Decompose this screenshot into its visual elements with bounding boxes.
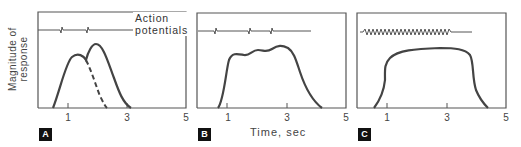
ap-label-line2: potentials <box>135 24 188 36</box>
panel-b-tick-5: 5 <box>343 112 349 123</box>
panel-b-tick-1: 1 <box>225 112 231 123</box>
panel-b-frame <box>197 13 346 108</box>
panel-b-action-potentials <box>198 28 311 34</box>
panel-b-tick-3: 3 <box>284 112 290 123</box>
figure-canvas <box>0 0 521 147</box>
action-potentials-label: Action potentials <box>133 12 188 36</box>
panel-b-badge: B <box>198 128 211 141</box>
y-axis-label: Magnitude of response <box>7 13 29 105</box>
panel-a-tick-5: 5 <box>183 112 189 123</box>
panel-a-single-twitch-dashed-curve <box>86 60 107 108</box>
panel-a-badge: A <box>39 128 52 141</box>
y-axis-label-line1: Magnitude of <box>7 27 18 91</box>
panel-c-response-curve <box>374 48 488 108</box>
panel-c-action-potentials <box>360 29 472 35</box>
x-axis-label: Time, sec <box>250 126 306 138</box>
panel-b-response-curve <box>218 46 322 108</box>
panel-c-tick-3: 3 <box>444 112 450 123</box>
panel-a-tick-1: 1 <box>65 112 71 123</box>
panel-c-frame <box>357 13 506 108</box>
ap-label-line1: Action <box>135 12 169 24</box>
panel-c-tick-1: 1 <box>384 112 390 123</box>
y-axis-label-line2: response <box>18 36 29 81</box>
panel-a-tick-3: 3 <box>124 112 130 123</box>
panel-c-tick-5: 5 <box>503 112 509 123</box>
panel-c-badge: C <box>358 128 371 141</box>
